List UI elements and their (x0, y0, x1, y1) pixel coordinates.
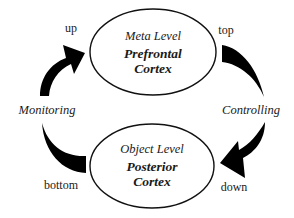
up-arrow-icon (40, 45, 85, 96)
bottom-label: bottom (44, 178, 79, 192)
monitoring-label: Monitoring (18, 103, 76, 117)
posterior-label: Posterior (126, 159, 178, 174)
up-label: up (65, 21, 77, 35)
top-label: top (218, 23, 233, 37)
object-level-node: Object Level Posterior Cortex (90, 124, 214, 208)
prefrontal-label: Prefrontal (124, 46, 182, 61)
controlling-label: Controlling (222, 103, 280, 117)
metacognition-diagram: Meta Level Prefrontal Cortex Object Leve… (0, 0, 294, 218)
down-arrow-icon (220, 122, 265, 178)
meta-level-node: Meta Level Prefrontal Cortex (90, 9, 216, 95)
top-arrow-tail-icon (222, 45, 264, 97)
prefrontal-cortex-label: Cortex (134, 61, 172, 76)
bottom-arrow-tail-icon (42, 123, 86, 173)
meta-level-label: Meta Level (124, 29, 181, 43)
down-label: down (221, 180, 248, 194)
posterior-cortex-label: Cortex (133, 174, 171, 189)
diagram-canvas: Meta Level Prefrontal Cortex Object Leve… (0, 0, 294, 218)
object-level-label: Object Level (120, 142, 184, 156)
